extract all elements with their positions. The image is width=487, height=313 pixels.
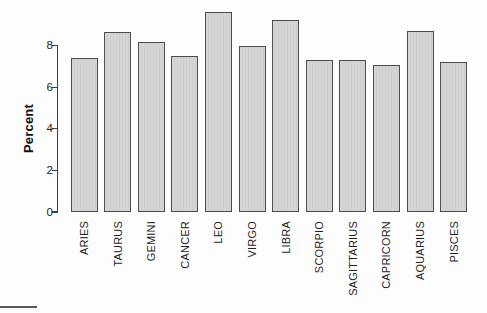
- x-label-pisces: PISCES: [447, 221, 461, 263]
- scanned-bar-chart-figure: Percent 02468ARIESTAURUSGEMINICANCERLEOV…: [0, 0, 487, 313]
- bar-gemini: [138, 42, 165, 212]
- y-axis-line: [57, 45, 58, 213]
- footnote-rule: [0, 306, 37, 308]
- bar-leo: [205, 12, 232, 212]
- y-tick-label: 2: [23, 164, 53, 177]
- x-label-aries: ARIES: [77, 221, 91, 255]
- bar-cancer: [171, 56, 198, 212]
- bar-sagittarius: [339, 60, 366, 212]
- bar-aries: [71, 58, 98, 212]
- bar-scorpio: [306, 60, 333, 212]
- y-tick-label: 4: [23, 122, 53, 135]
- x-label-cancer: CANCER: [178, 221, 192, 269]
- x-label-aquarius: AQUARIUS: [413, 221, 427, 280]
- bar-virgo: [239, 46, 266, 212]
- bar-pisces: [440, 62, 467, 212]
- y-tick-label: 8: [23, 39, 53, 52]
- y-tick-label: 0: [23, 206, 53, 219]
- bar-aquarius: [407, 31, 434, 212]
- x-label-virgo: VIRGO: [245, 221, 259, 257]
- bar-libra: [272, 20, 299, 212]
- bar-capricorn: [373, 65, 400, 212]
- x-label-gemini: GEMINI: [144, 221, 158, 261]
- x-label-taurus: TAURUS: [111, 221, 125, 267]
- x-label-leo: LEO: [211, 221, 225, 244]
- y-tick-label: 6: [23, 81, 53, 94]
- x-label-libra: LIBRA: [279, 221, 293, 254]
- x-label-sagittarius: SAGITTARIUS: [346, 221, 360, 296]
- x-label-capricorn: CAPRICORN: [379, 221, 393, 289]
- bar-taurus: [104, 32, 131, 212]
- x-label-scorpio: SCORPIO: [312, 221, 326, 273]
